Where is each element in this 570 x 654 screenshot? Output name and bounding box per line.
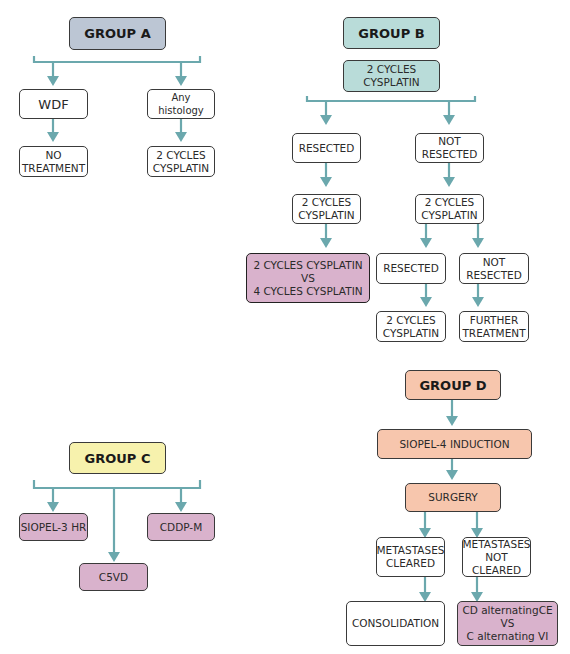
metastases-cleared-node: METASTASES CLEARED bbox=[376, 537, 445, 577]
surgery-node: SURGERY bbox=[405, 483, 501, 512]
not-resected-cisplatin-node: 2 CYCLES CYSPLATIN bbox=[415, 194, 484, 224]
resected-cisplatin-node: 2 CYCLES CYSPLATIN bbox=[292, 194, 361, 224]
siopel3-hr-node: SIOPEL-3 HR bbox=[19, 513, 88, 541]
wdf-node: WDF bbox=[19, 89, 88, 119]
c5vd-node: C5VD bbox=[79, 563, 148, 591]
siopel4-induction-node: SIOPEL-4 INDUCTION bbox=[377, 429, 532, 459]
no-treatment-node: NO TREATMENT bbox=[19, 146, 88, 177]
group-b-initial-cisplatin: 2 CYCLES CYSPLATIN bbox=[343, 60, 440, 92]
further-treatment-node: FURTHER TREATMENT bbox=[459, 311, 529, 342]
group-d-header: GROUP D bbox=[405, 370, 501, 400]
group-a-header: GROUP A bbox=[69, 17, 166, 50]
second-resected-node: RESECTED bbox=[376, 253, 446, 284]
resected-node: RESECTED bbox=[292, 133, 361, 163]
consolidation-node: CONSOLIDATION bbox=[346, 601, 445, 646]
cddp-m-node: CDDP-M bbox=[147, 513, 215, 541]
not-resected-node: NOT RESECTED bbox=[415, 133, 484, 163]
metastases-not-cleared-node: METASTASES NOT CLEARED bbox=[462, 537, 531, 577]
group-d-randomization-node: CD alternatingCE VS C alternating VI bbox=[457, 601, 558, 646]
group-c-header: GROUP C bbox=[69, 442, 166, 474]
any-histology-node: Any histology bbox=[147, 89, 215, 119]
group-b-randomization-node: 2 CYCLES CYSPLATIN VS 4 CYCLES CYSPLATIN bbox=[246, 253, 370, 303]
second-resected-cisplatin-node: 2 CYCLES CYSPLATIN bbox=[376, 311, 446, 342]
group-b-header: GROUP B bbox=[343, 17, 440, 49]
second-not-resected-node: NOT RESECTED bbox=[459, 253, 529, 284]
group-a-cisplatin-node: 2 CYCLES CYSPLATIN bbox=[147, 146, 215, 177]
